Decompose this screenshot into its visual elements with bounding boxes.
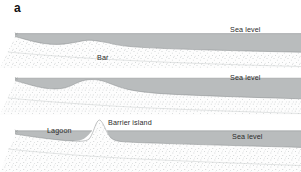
- panel-letter-a: a: [14, 2, 21, 14]
- bar-label: Bar: [97, 54, 109, 61]
- stage-2-sea-level-label: Sea level: [230, 74, 260, 81]
- stage-3-sea-level-label: Sea level: [232, 133, 262, 140]
- figure-container: a: [0, 0, 301, 172]
- lagoon-label: Lagoon: [47, 127, 72, 134]
- stage-1-sea-level-label: Sea level: [230, 26, 260, 33]
- barrier-island-label: Barrier island: [108, 119, 152, 126]
